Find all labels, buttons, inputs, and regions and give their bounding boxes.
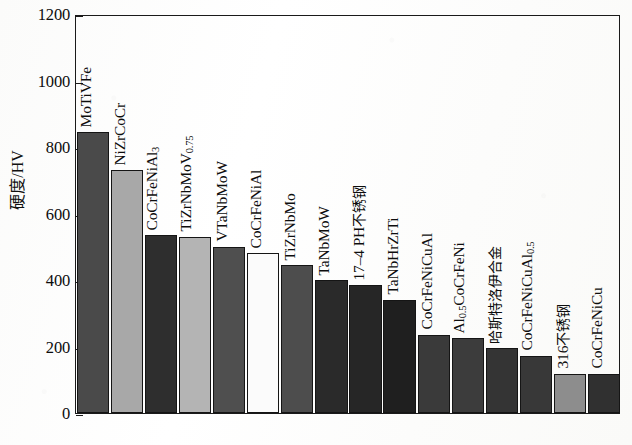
- bar: NiZrCoCr: [111, 170, 143, 413]
- y-tick-label: 200: [22, 338, 70, 358]
- y-tick-label: 1000: [22, 72, 70, 92]
- bar-category-label: TaNbMoW: [316, 206, 332, 275]
- y-axis-tick-labels: 020040060080010001200: [14, 0, 70, 445]
- bar: TiZrNbMo: [281, 265, 313, 413]
- y-tick-label: 400: [22, 271, 70, 291]
- bar-category-label: CoCrFeNiAl: [248, 170, 264, 249]
- y-tick-label: 0: [22, 404, 70, 424]
- bar-category-label: TiZrNbMo: [282, 193, 298, 260]
- bar: TiZrNbMoV0.75: [179, 237, 211, 413]
- plot-area: MoTiVFeNiZrCoCrCoCrFeNiAl3TiZrNbMoV0.75V…: [75, 15, 620, 414]
- bar: CoCrFeNiAl: [247, 253, 279, 413]
- bar: MoTiVFe: [77, 132, 109, 413]
- bar: TaNbHrZrTi: [383, 300, 415, 413]
- bar-category-label: VTaNbMoW: [214, 161, 230, 241]
- bar-category-label: CoCrFeNiAl3: [144, 146, 162, 230]
- bar: CoCrFeNiCuAl: [418, 335, 450, 413]
- bar-category-label: 哈斯特洛伊合金: [486, 246, 502, 343]
- bar-category-label: NiZrCoCr: [112, 103, 128, 166]
- bar-category-label: 17–4 PH不锈钢: [350, 185, 366, 280]
- bar-category-label: MoTiVFe: [78, 67, 94, 127]
- bar-series: MoTiVFeNiZrCoCrCoCrFeNiAl3TiZrNbMoV0.75V…: [76, 16, 619, 413]
- bar-category-label: TiZrNbMoV0.75: [178, 136, 196, 232]
- bar: CoCrFeNiAl3: [145, 235, 177, 413]
- y-tick-label: 1200: [22, 5, 70, 25]
- y-tick-label: 600: [22, 205, 70, 225]
- bar: CoCrFeNiCuAl0.5: [520, 356, 552, 413]
- y-tick-mark: [76, 415, 83, 416]
- bar-category-label: CoCrFeNiCuAl: [418, 233, 434, 329]
- bar-category-label: 316不锈钢: [554, 304, 570, 368]
- bar: VTaNbMoW: [213, 247, 245, 413]
- bar-category-label: CoCrFeNiCuAl0.5: [518, 242, 536, 351]
- bar: TaNbMoW: [315, 280, 347, 413]
- bar: 17–4 PH不锈钢: [349, 285, 381, 413]
- bar: CoCrFeNiCu: [588, 374, 620, 413]
- bar: 316不锈钢: [554, 374, 586, 413]
- bar: 哈斯特洛伊合金: [486, 348, 518, 413]
- bar-category-label: Al0.5CoCrFeNi: [450, 242, 468, 333]
- y-tick-label: 800: [22, 138, 70, 158]
- bar: Al0.5CoCrFeNi: [452, 338, 484, 413]
- bar-category-label: CoCrFeNiCu: [588, 288, 604, 369]
- hardness-bar-chart-figure: 硬度/HV 020040060080010001200 MoTiVFeNiZrC…: [0, 0, 632, 445]
- bar-category-label: TaNbHrZrTi: [384, 218, 400, 295]
